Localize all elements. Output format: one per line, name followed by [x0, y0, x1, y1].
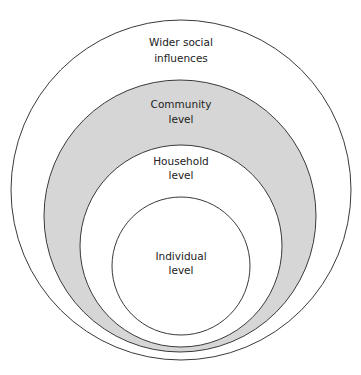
- nested-levels-diagram: Wider social influences Community level …: [0, 0, 361, 375]
- wider-label-line2: influences: [154, 52, 208, 64]
- community-label-line2: level: [169, 113, 194, 125]
- wider-label-line1: Wider social: [149, 36, 213, 48]
- household-label-line1: Household: [153, 155, 209, 167]
- household-label-line2: level: [169, 169, 194, 181]
- individual-label-line2: level: [169, 264, 194, 276]
- individual-label-line1: Individual: [155, 250, 206, 262]
- community-label-line1: Community: [151, 98, 212, 110]
